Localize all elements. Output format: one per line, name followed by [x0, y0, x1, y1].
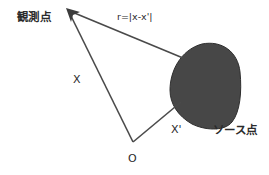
source-region-shape: [170, 43, 241, 129]
origin-label: O: [128, 153, 137, 165]
source-point-label: ソース点: [213, 124, 257, 136]
observation-point-label: 観測点: [17, 11, 51, 23]
vector-diagram: [0, 0, 269, 175]
distance-formula-label: r=|x-x'|: [117, 11, 153, 23]
position-vector-label: X: [73, 74, 81, 86]
vector-x-prime-line: [133, 102, 181, 142]
source-vector-label: X': [171, 124, 182, 136]
